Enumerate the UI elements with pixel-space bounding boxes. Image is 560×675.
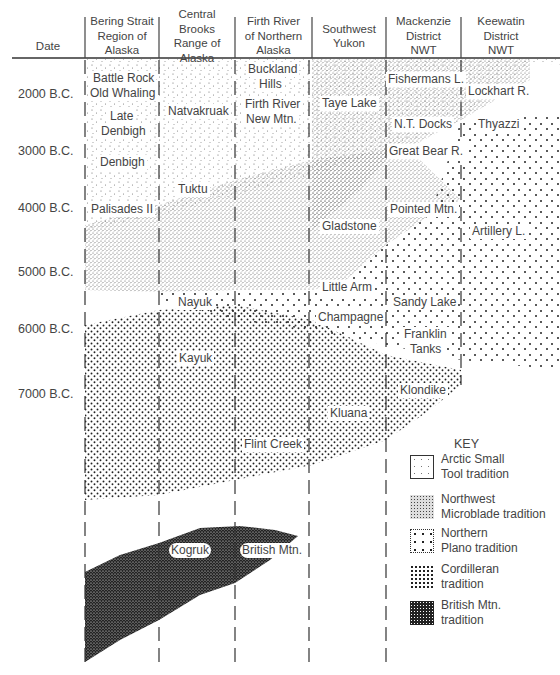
site-label: Kluana <box>328 406 369 421</box>
header-line: Yukon <box>322 36 376 51</box>
key-label: Tool tradition <box>441 467 509 482</box>
header-line: Alaska <box>159 51 235 66</box>
date-label: 7000 B.C. <box>18 387 74 401</box>
site-label: Natvakruak <box>166 104 231 119</box>
site-label: Gladstone <box>320 219 379 234</box>
site-label: Late <box>108 109 135 124</box>
key-label: Arctic Small <box>441 452 509 467</box>
site-label: Kayuk <box>177 351 214 366</box>
header-line: District <box>477 29 524 44</box>
header-column-brooks: Central BrooksRange ofAlaska <box>159 12 235 60</box>
key-item-cordilleran: Cordillerantradition <box>410 562 560 602</box>
header-line: District <box>396 29 451 44</box>
header-line: Central Brooks <box>159 7 235 36</box>
site-label: New Mtn. <box>244 112 299 127</box>
date-label: 4000 B.C. <box>18 201 74 215</box>
site-label: Tuktu <box>176 182 210 197</box>
site-label: British Mtn. <box>240 543 304 558</box>
site-label: Nayuk <box>176 295 214 310</box>
date-label: 2000 B.C. <box>18 87 74 101</box>
site-label: Taye Lake <box>320 96 379 111</box>
site-label: Firth River <box>243 97 302 112</box>
site-label: Great Bear R. <box>387 144 465 159</box>
header-column-keewatin: KeewatinDistrictNWT <box>461 12 541 60</box>
key-label: Microblade tradition <box>441 507 546 522</box>
header-line: Range of <box>159 36 235 51</box>
site-label: Pointed Mtn. <box>388 202 459 217</box>
header-line: Bering Strait <box>90 14 153 29</box>
site-label: Little Arm <box>320 280 374 295</box>
header-line: Region of <box>90 29 153 44</box>
site-label: Klondike <box>398 383 448 398</box>
date-label: 5000 B.C. <box>18 265 74 279</box>
site-label: Champagne <box>316 310 385 325</box>
site-label: Flint Creek <box>242 437 304 452</box>
site-label: Artillery L. <box>470 224 527 239</box>
date-label: 3000 B.C. <box>18 144 74 158</box>
site-label: N.T. Docks <box>392 117 454 132</box>
site-label: Sandy Lake <box>391 295 458 310</box>
header-line: Southwest <box>322 22 376 37</box>
site-label: Thyazzi <box>476 117 521 132</box>
site-label: Franklin <box>402 327 449 342</box>
header-line: NWT <box>477 43 524 58</box>
header-line: Alaska <box>245 43 303 58</box>
site-label: Lockhart R. <box>466 84 531 99</box>
site-label: Tanks <box>408 342 443 357</box>
site-label: Kogruk <box>169 543 211 558</box>
site-label: Palisades II <box>89 202 155 217</box>
header-column-mackenzie: MackenzieDistrictNWT <box>386 12 461 60</box>
key-item-british-mtn: British Mtn.tradition <box>410 598 560 638</box>
header-date: Date <box>12 22 84 70</box>
header-column-firth: Firth Riverof NorthernAlaska <box>235 12 312 60</box>
key-title: KEY <box>454 437 479 451</box>
key-item-northern-plano: NorthernPlano tradition <box>410 526 560 566</box>
site-label: Denbigh <box>98 155 147 170</box>
key-label: Northwest <box>441 492 546 507</box>
header-line: Mackenzie <box>396 14 451 29</box>
site-label: Buckland <box>246 62 299 77</box>
key-label: Plano tradition <box>441 541 518 556</box>
header-column-bering: Bering StraitRegion ofAlaska <box>85 12 159 60</box>
site-label: Hills <box>257 77 284 92</box>
header-line: NWT <box>396 43 451 58</box>
site-label: Fishermans L. <box>386 72 466 87</box>
date-column-label: Date <box>36 39 60 54</box>
key-item-arctic-small-tool: Arctic SmallTool tradition <box>410 452 560 492</box>
northern-plano-swatch <box>410 529 434 553</box>
date-label: 6000 B.C. <box>18 322 74 336</box>
header-line: Firth River <box>245 14 303 29</box>
key-label: British Mtn. <box>441 598 501 613</box>
key-label: tradition <box>441 613 501 628</box>
site-label: Denbigh <box>99 124 148 139</box>
cordilleran-swatch <box>410 565 434 589</box>
key-label: Cordilleran <box>441 562 499 577</box>
british-mtn-swatch <box>410 601 434 625</box>
header-line: Alaska <box>90 43 153 58</box>
site-label: Old Whaling <box>88 86 157 101</box>
header-line: Keewatin <box>477 14 524 29</box>
header-line: of Northern <box>245 29 303 44</box>
northwest-microblade-swatch <box>410 495 434 519</box>
header-column-yukon: SouthwestYukon <box>312 12 386 60</box>
site-label: Battle Rock <box>91 71 156 86</box>
arctic-small-tool-swatch <box>410 455 434 479</box>
key-label: tradition <box>441 577 499 592</box>
key-label: Northern <box>441 526 518 541</box>
